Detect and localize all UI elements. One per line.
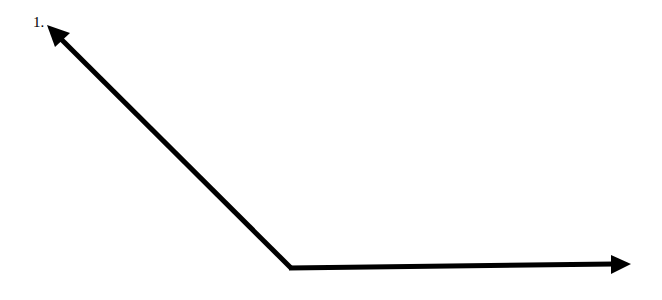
right-ray	[289, 264, 614, 268]
diagram-canvas: 1.	[0, 0, 662, 300]
angle-diagram	[0, 0, 662, 300]
arrowhead-right-icon	[611, 255, 631, 274]
upper-left-ray	[60, 38, 291, 268]
